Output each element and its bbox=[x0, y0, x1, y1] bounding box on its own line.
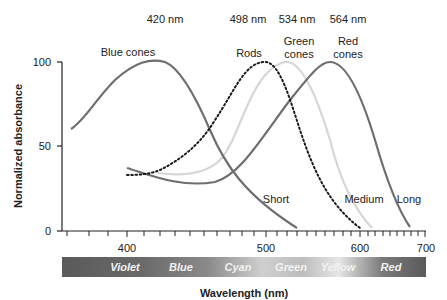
peak-498-label: 498 nm bbox=[230, 13, 267, 25]
rods-label: Rods bbox=[236, 47, 262, 59]
x-tick-500: 500 bbox=[257, 242, 275, 254]
x-axis-title: Wavelength (nm) bbox=[200, 287, 289, 299]
blue-cones-label: Blue cones bbox=[101, 46, 156, 58]
x-tick-600: 600 bbox=[351, 242, 369, 254]
y-axis: 100 50 0 Normalized absorbance bbox=[12, 56, 62, 237]
y-axis-title: Normalized absorbance bbox=[12, 84, 24, 208]
spectrum-bar: Violet Blue Cyan Green Yellow Red bbox=[62, 257, 426, 277]
red-cones-label-line1: Red bbox=[338, 35, 358, 47]
band-violet: Violet bbox=[110, 261, 141, 273]
band-yellow: Yellow bbox=[321, 261, 357, 273]
peak-534-label: 534 nm bbox=[279, 13, 316, 25]
x-tick-700: 700 bbox=[417, 242, 435, 254]
rods-curve bbox=[127, 62, 360, 228]
band-blue: Blue bbox=[169, 261, 193, 273]
band-cyan: Cyan bbox=[225, 261, 252, 273]
long-label: Long bbox=[397, 193, 421, 205]
x-axis: 400 500 600 700 bbox=[62, 231, 435, 254]
short-label: Short bbox=[263, 193, 289, 205]
medium-label: Medium bbox=[344, 193, 383, 205]
peak-564-label: 564 nm bbox=[330, 13, 367, 25]
green-cones-label-line1: Green bbox=[284, 35, 315, 47]
y-tick-100: 100 bbox=[33, 56, 51, 68]
red-cones-label-line2: cones bbox=[333, 48, 363, 60]
y-tick-0: 0 bbox=[45, 225, 51, 237]
x-tick-400: 400 bbox=[118, 242, 136, 254]
band-green: Green bbox=[275, 261, 307, 273]
band-red: Red bbox=[381, 261, 402, 273]
chart: 100 50 0 Normalized absorbance 400 5 bbox=[0, 0, 447, 300]
peak-420-label: 420 nm bbox=[147, 13, 184, 25]
y-tick-50: 50 bbox=[39, 140, 51, 152]
green-cones-label-line2: cones bbox=[284, 48, 314, 60]
